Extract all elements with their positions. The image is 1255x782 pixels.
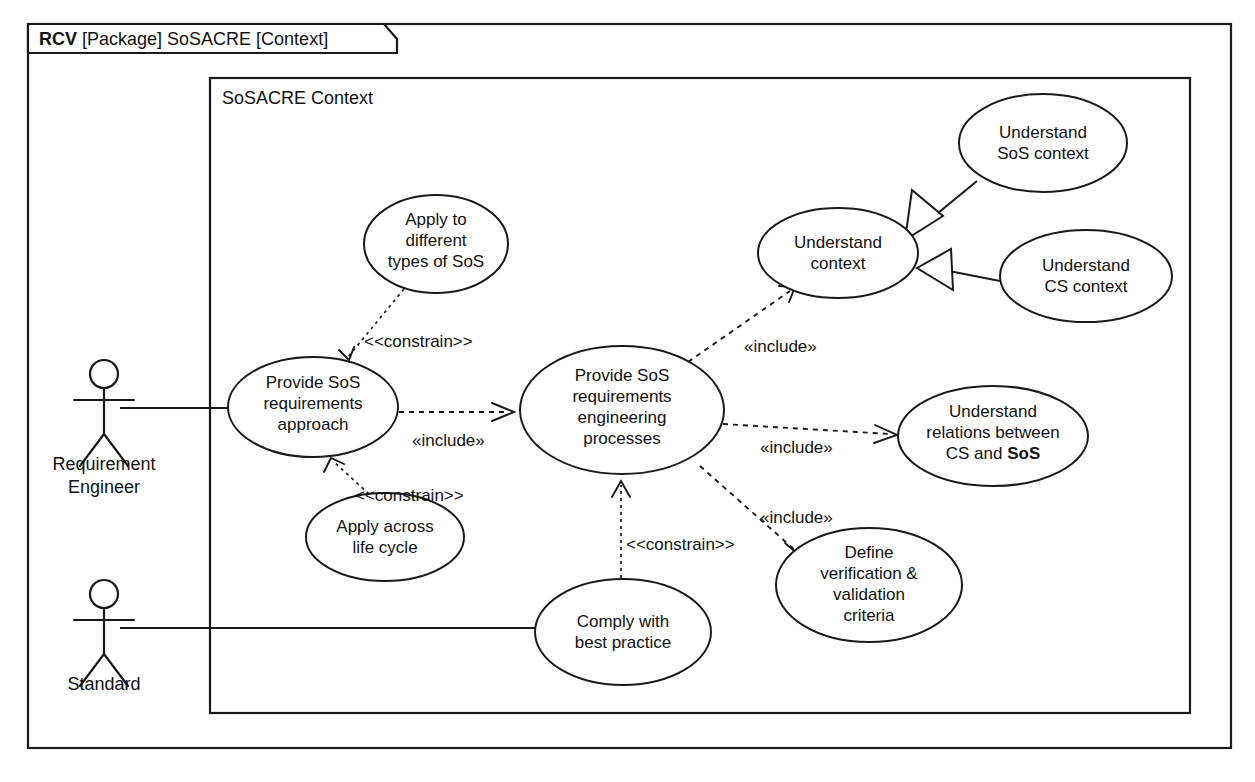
use-case-label-line4: processes	[583, 429, 660, 448]
use-case-understand-relations-cs-sos[interactable]: Understand relations between CS and SoS	[898, 386, 1088, 486]
use-case-label-line1: Understand	[949, 402, 1037, 421]
use-case-label-line2: CS context	[1044, 277, 1127, 296]
use-case-define-verification-validation-criteria[interactable]: Define verification & validation criteri…	[776, 528, 962, 642]
use-case-label-line1: Provide SoS	[575, 366, 670, 385]
actor-head-icon	[90, 580, 118, 608]
actor-head-icon	[90, 360, 118, 388]
use-case-label-line2: SoS context	[997, 144, 1089, 163]
use-case-label-line2: requirements	[263, 394, 362, 413]
use-case-comply-with-best-practice[interactable]: Comply with best practice	[535, 579, 711, 685]
actor-requirement-engineer[interactable]: Requirement Engineer	[52, 360, 155, 497]
use-case-apply-across-life-cycle[interactable]: Apply across life cycle	[306, 493, 464, 581]
use-case-label-line1: Understand	[794, 233, 882, 252]
use-case-label-line3: validation	[833, 585, 905, 604]
use-case-label-line2: relations between	[926, 423, 1059, 442]
use-case-label-line1: Apply across	[336, 517, 433, 536]
use-case-label-line2: requirements	[572, 387, 671, 406]
system-boundary-label: SoSACRE Context	[222, 88, 373, 108]
use-case-label-line3: approach	[278, 415, 349, 434]
use-case-label-line3: CS and SoS	[946, 444, 1041, 463]
actor-label-line1: Requirement	[52, 454, 155, 474]
frame-title: RCV [Package] SoSACRE [Context]	[39, 29, 328, 49]
use-case-label-line1: Understand	[999, 123, 1087, 142]
relationship-label-include-understand-relations: «include»	[760, 438, 833, 457]
use-case-understand-cs-context[interactable]: Understand CS context	[1000, 230, 1172, 322]
relationship-label-include-understand-context: «include»	[744, 337, 817, 356]
label-part-plain: CS and	[946, 444, 1007, 463]
use-case-label-line1: Understand	[1042, 256, 1130, 275]
use-case-label-line3: types of SoS	[388, 252, 484, 271]
use-case-label-line1: Define	[844, 543, 893, 562]
use-case-label-line4: criteria	[843, 606, 895, 625]
use-case-label-line1: Apply to	[405, 210, 466, 229]
use-case-apply-different-types-sos[interactable]: Apply to different types of SoS	[364, 195, 508, 293]
label-part-bold: SoS	[1007, 444, 1040, 463]
use-case-diagram: RCV [Package] SoSACRE [Context] SoSACRE …	[0, 0, 1255, 782]
relationship-label-constrain-life-cycle: <<constrain>>	[355, 486, 464, 505]
use-case-understand-sos-context[interactable]: Understand SoS context	[959, 94, 1127, 192]
dependency-constrain-best-practice	[612, 481, 630, 578]
dependency-include-approach-to-processes	[399, 403, 514, 421]
use-case-label-line2: context	[811, 254, 866, 273]
actor-standard[interactable]: Standard	[67, 580, 140, 694]
frame-title-kind: RCV	[39, 29, 77, 49]
relationship-label-constrain-best-practice: <<constrain>>	[626, 535, 735, 554]
actor-label-line2: Engineer	[68, 477, 140, 497]
use-case-label-line2: life cycle	[352, 538, 417, 557]
frame-title-rest: [Package] SoSACRE [Context]	[77, 29, 328, 49]
relationship-label-include-define-vv: «include»	[760, 508, 833, 527]
relationship-label-include-approach-processes: «include»	[412, 431, 485, 450]
use-case-label-line3: engineering	[578, 408, 667, 427]
use-case-understand-context[interactable]: Understand context	[758, 208, 918, 298]
use-case-label-line2: verification &	[820, 564, 918, 583]
use-case-label-line1: Comply with	[577, 612, 670, 631]
relationship-label-constrain-top: <<constrain>>	[364, 332, 473, 351]
use-case-provide-sos-requirements-approach[interactable]: Provide SoS requirements approach	[228, 357, 398, 457]
actor-label-line1: Standard	[67, 674, 140, 694]
generalization-understand-cs-context	[917, 249, 1000, 290]
use-case-label-line1: Provide SoS	[266, 373, 361, 392]
uml-canvas: RCV [Package] SoSACRE [Context] SoSACRE …	[0, 0, 1255, 782]
use-case-label-line2: best practice	[575, 633, 671, 652]
use-case-label-line2: different	[405, 231, 466, 250]
use-case-provide-sos-re-processes[interactable]: Provide SoS requirements engineering pro…	[520, 346, 724, 474]
generalization-understand-sos-context	[905, 181, 977, 240]
